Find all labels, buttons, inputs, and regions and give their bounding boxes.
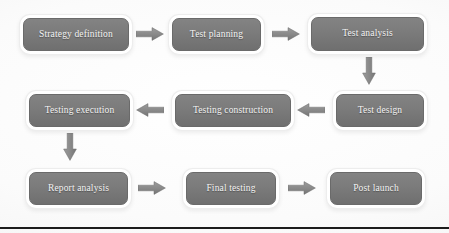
arrow-testing-execution-to-report-analysis (63, 133, 77, 161)
node-label: Post launch (353, 184, 399, 194)
node-label: Strategy definition (39, 30, 113, 40)
bottom-divider-rule (0, 227, 449, 229)
node-label: Testing construction (193, 106, 273, 116)
arrow-strategy-definition-to-test-planning (136, 27, 164, 41)
node-label: Test planning (190, 30, 243, 40)
node-label: Testing execution (45, 106, 115, 116)
arrow-test-design-to-testing-construction (297, 103, 325, 117)
node-test-analysis[interactable]: Test analysis (311, 17, 424, 51)
arrow-final-testing-to-post-launch (288, 181, 316, 195)
arrow-test-planning-to-test-analysis (272, 27, 300, 41)
arrow-testing-construction-to-testing-execution (136, 103, 164, 117)
node-strategy-definition[interactable]: Strategy definition (23, 18, 129, 51)
node-testing-construction[interactable]: Testing construction (175, 94, 291, 127)
node-label: Test design (358, 106, 403, 116)
arrow-test-analysis-to-test-design (362, 57, 376, 85)
arrow-report-analysis-to-final-testing (138, 181, 166, 195)
node-report-analysis[interactable]: Report analysis (29, 172, 128, 205)
node-test-design[interactable]: Test design (336, 94, 424, 127)
node-label: Final testing (206, 184, 255, 194)
node-final-testing[interactable]: Final testing (186, 172, 276, 205)
node-test-planning[interactable]: Test planning (172, 18, 261, 51)
node-label: Report analysis (48, 184, 109, 194)
diagram-canvas: Strategy definition Test planning Test a… (0, 0, 449, 233)
node-testing-execution[interactable]: Testing execution (29, 94, 130, 127)
node-post-launch[interactable]: Post launch (330, 172, 422, 205)
node-label: Test analysis (342, 29, 393, 39)
